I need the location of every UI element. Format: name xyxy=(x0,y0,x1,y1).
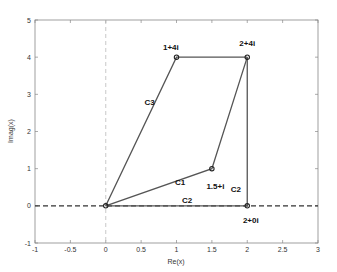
y-tick-label: -1 xyxy=(25,240,31,247)
annotation-label: C2 xyxy=(231,185,242,194)
y-tick-label: 5 xyxy=(27,17,31,24)
x-tick-label: 2.5 xyxy=(278,246,288,253)
y-tick-label: 0 xyxy=(27,202,31,209)
annotation-label: 2+0i xyxy=(243,216,259,225)
x-tick-label: 2 xyxy=(245,246,249,253)
x-tick-label: -0.5 xyxy=(64,246,76,253)
x-tick-label: 3 xyxy=(316,246,320,253)
x-tick-label: 1.5 xyxy=(207,246,217,253)
x-tick-label: -1 xyxy=(32,246,38,253)
annotation-label: C3 xyxy=(144,98,155,107)
plot-area xyxy=(35,20,318,243)
y-axis-label: Imag(x) xyxy=(7,119,15,143)
annotation-label: 1+4i xyxy=(163,43,179,52)
annotation-label: 1.5+i xyxy=(206,182,224,191)
annotation-label: 2+4i xyxy=(239,39,255,48)
x-tick-label: 0 xyxy=(104,246,108,253)
y-tick-label: 2 xyxy=(27,128,31,135)
x-axis-label: Re(x) xyxy=(167,258,184,266)
annotation-label: C1 xyxy=(175,178,186,187)
y-tick-label: 1 xyxy=(27,165,31,172)
complex-plane-chart: -1-0.500.511.522.53-1012345 C1C2C2C31+4i… xyxy=(0,0,337,272)
x-tick-label: 1 xyxy=(175,246,179,253)
y-tick-label: 4 xyxy=(27,54,31,61)
y-tick-label: 3 xyxy=(27,91,31,98)
annotation-label: C2 xyxy=(182,196,193,205)
x-tick-label: 0.5 xyxy=(136,246,146,253)
plot-frame xyxy=(35,20,318,243)
